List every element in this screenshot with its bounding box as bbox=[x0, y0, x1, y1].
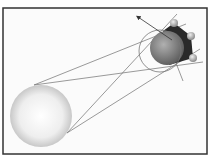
sun-sphere bbox=[10, 85, 72, 147]
moon bbox=[189, 54, 197, 62]
eclipse-diagram bbox=[0, 0, 212, 159]
moon bbox=[187, 32, 195, 40]
diagram-canvas bbox=[0, 0, 212, 159]
moon bbox=[170, 19, 178, 27]
